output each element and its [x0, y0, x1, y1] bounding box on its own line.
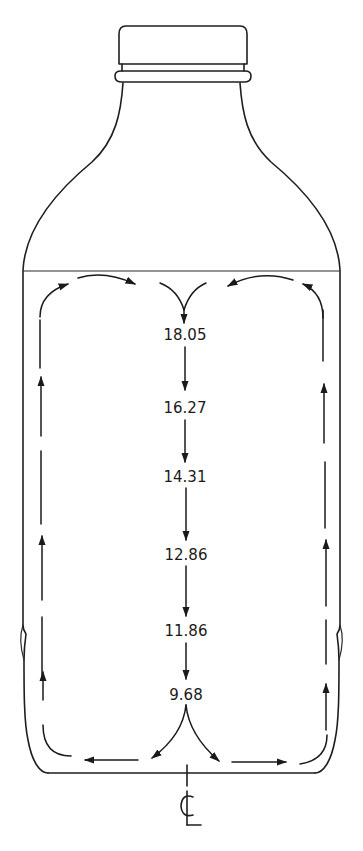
value-label-2: 16.27 [164, 399, 207, 417]
value-label-6: 9.68 [169, 686, 202, 704]
bottle-cap [115, 26, 251, 82]
centerline-marker [181, 765, 201, 825]
value-label-3: 14.31 [164, 468, 207, 486]
bottom-divergence [85, 705, 286, 762]
value-label-4: 12.86 [165, 546, 208, 564]
right-circulation [228, 276, 327, 764]
left-circulation [40, 275, 135, 756]
value-label-5: 11.86 [165, 622, 208, 640]
bottle-outline [21, 83, 343, 773]
bottle-flow-diagram: 18.05 16.27 14.31 12.86 11.86 9.68 [0, 0, 363, 851]
value-label-1: 18.05 [164, 326, 207, 344]
